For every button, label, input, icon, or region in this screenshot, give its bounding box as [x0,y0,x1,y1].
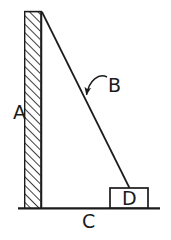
label-ladder-b: B [108,74,121,96]
diagram-canvas: A B C D [0,0,171,240]
ladder-line [42,12,130,189]
label-ground-c: C [82,210,95,232]
wall-group [24,11,42,208]
wall-hatched-fill [24,11,41,208]
leader-curve-to-ladder [87,76,108,95]
ladder-wall-diagram: A B C D [0,0,171,240]
label-wall-a: A [13,101,26,123]
label-block-d: D [122,187,137,209]
